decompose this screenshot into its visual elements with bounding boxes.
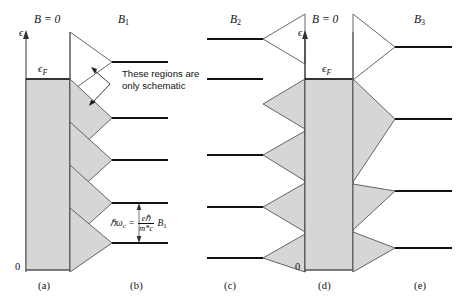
panel-c-lobe-5 — [263, 14, 305, 64]
figure-canvas — [0, 0, 456, 301]
panel-c-group — [207, 14, 305, 272]
panel-e-lobe-4 — [353, 14, 395, 80]
formula-equals: = — [128, 218, 134, 228]
formula-fraction: eℏ m*c — [138, 214, 154, 233]
field-label-d: B = 0 — [312, 14, 338, 26]
panel-label-e: (e) — [414, 281, 426, 292]
schematic-regions-note: These regions are only schematic — [122, 68, 199, 91]
panel-e-group — [353, 14, 452, 272]
panel-e-lobe-1 — [353, 232, 395, 272]
panel-b-annotation-leader-upper — [94, 70, 110, 84]
panel-label-c: (c) — [224, 281, 236, 292]
panel-d-filled-band — [305, 79, 353, 270]
formula-lhs-sub: c — [123, 222, 126, 230]
zero-label-right: 0 — [295, 262, 300, 273]
cyclotron-energy-formula: ℏωc = eℏ m*c B1 — [110, 214, 167, 233]
formula-lhs: ℏω — [110, 218, 123, 228]
panel-label-b: (b) — [130, 281, 143, 292]
fermi-level-label-left: ϵF — [38, 63, 47, 77]
field-label-b: B1 — [118, 14, 129, 27]
energy-axis-label-left: ϵ — [19, 28, 23, 38]
panel-d-axis-arrowhead — [302, 30, 308, 39]
zero-label-left: 0 — [15, 262, 20, 273]
landau-level-figure: B = 0 B1 B2 B = 0 B3 ϵ ϵ ϵF ϵF 0 0 These… — [0, 0, 456, 301]
panel-b-lobe-5 — [70, 32, 112, 92]
panel-a-filled-band — [26, 79, 70, 270]
formula-denominator: m*c — [138, 224, 154, 233]
fermi-level-label-right: ϵF — [322, 63, 331, 77]
energy-axis-label-right: ϵ — [298, 28, 302, 38]
panel-a-axis-arrowhead — [23, 30, 29, 39]
field-label-c: B2 — [230, 14, 241, 27]
field-label-e: B3 — [414, 14, 425, 27]
panel-c-lobe-2 — [263, 183, 305, 232]
panel-e-lobe-3 — [353, 79, 395, 182]
panel-label-a: (a) — [38, 281, 50, 292]
panel-c-lobe-3 — [263, 131, 305, 181]
panel-label-d: (d) — [318, 281, 331, 292]
panel-b-annotation-leader-lower — [92, 84, 110, 103]
field-label-a: B = 0 — [34, 14, 60, 26]
panel-e-lobe-2 — [353, 184, 395, 230]
formula-rhs-sub: 1 — [163, 222, 167, 230]
panel-c-lobe-4 — [263, 79, 305, 129]
